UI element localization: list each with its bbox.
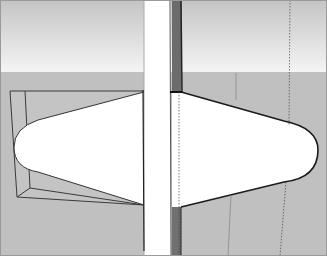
dark-column-bottom: [172, 207, 181, 256]
dark-column-edge: [181, 0, 182, 92]
center-white-column: [144, 0, 171, 256]
3d-viewport[interactable]: [0, 0, 327, 256]
dark-column-top: [172, 0, 181, 92]
model-canvas[interactable]: [0, 0, 327, 256]
